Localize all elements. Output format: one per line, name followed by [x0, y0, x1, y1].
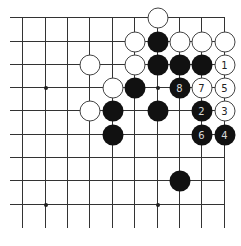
white-stone — [191, 31, 212, 52]
grid-line-vertical — [67, 17, 68, 228]
black-stone: 2 — [191, 100, 212, 121]
white-stone: 7 — [191, 77, 212, 98]
black-stone — [169, 54, 190, 75]
grid-line-vertical — [22, 17, 23, 228]
grid-line-horizontal — [10, 180, 225, 181]
white-stone: 1 — [214, 54, 235, 75]
black-stone — [102, 124, 123, 145]
grid-line-horizontal — [10, 204, 225, 205]
white-stone — [214, 31, 235, 52]
black-stone — [147, 54, 168, 75]
black-stone — [147, 100, 168, 121]
black-stone — [124, 77, 145, 98]
white-stone: 3 — [214, 100, 235, 121]
white-stone — [79, 54, 100, 75]
black-stone: 6 — [191, 124, 212, 145]
grid-line-vertical — [89, 17, 90, 228]
star-point — [44, 86, 48, 90]
black-stone — [191, 54, 212, 75]
black-stone — [169, 170, 190, 191]
white-stone — [169, 31, 190, 52]
grid-line-horizontal — [10, 17, 225, 18]
white-stone — [79, 100, 100, 121]
go-board: 18752364 — [0, 0, 241, 246]
black-stone: 8 — [169, 77, 190, 98]
grid-line-horizontal — [10, 157, 225, 158]
star-point — [44, 203, 48, 207]
star-point — [156, 86, 160, 90]
black-stone — [147, 31, 168, 52]
grid-line-vertical — [112, 17, 113, 228]
white-stone — [124, 54, 145, 75]
white-stone: 5 — [214, 77, 235, 98]
black-stone: 4 — [214, 124, 235, 145]
grid-line-vertical — [45, 17, 46, 228]
black-stone — [102, 100, 123, 121]
star-point — [156, 203, 160, 207]
white-stone — [147, 7, 168, 28]
white-stone — [124, 31, 145, 52]
white-stone — [102, 77, 123, 98]
